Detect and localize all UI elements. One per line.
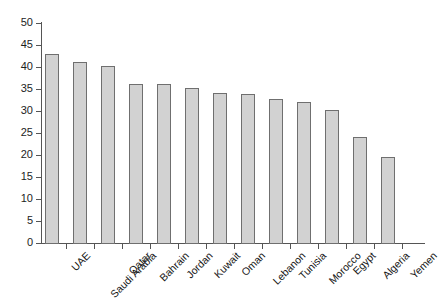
y-axis-tick	[36, 221, 41, 222]
y-axis-tick	[36, 133, 41, 134]
x-axis-category-label: Algeria	[381, 250, 412, 281]
x-axis-tick	[150, 244, 151, 249]
y-axis-tick-label: 35	[7, 83, 33, 94]
x-axis-tick	[374, 244, 375, 249]
y-axis-tick	[36, 89, 41, 90]
bar	[353, 137, 367, 244]
y-axis-tick	[36, 155, 41, 156]
x-axis-tick	[318, 244, 319, 249]
y-axis-tick-label: 10	[7, 193, 33, 204]
y-axis-tick-label: 45	[7, 39, 33, 50]
x-axis-category-label: Oman	[239, 250, 267, 278]
bar	[213, 93, 227, 244]
bar	[185, 88, 199, 244]
x-axis-tick	[262, 244, 263, 249]
x-axis-tick	[66, 244, 67, 249]
y-axis-tick	[36, 243, 41, 244]
y-axis-tick	[36, 177, 41, 178]
y-axis-tick-label: 40	[7, 61, 33, 72]
bar	[297, 102, 311, 244]
y-axis-line	[41, 22, 42, 244]
bar	[241, 94, 255, 244]
x-axis-tick	[290, 244, 291, 249]
y-axis-tick-label: 15	[7, 171, 33, 182]
x-axis-tick	[402, 244, 403, 249]
bar	[157, 84, 171, 244]
y-axis-tick-label: 5	[7, 215, 33, 226]
x-axis-tick	[234, 244, 235, 249]
bar	[101, 66, 115, 244]
y-axis-tick-label: 30	[7, 105, 33, 116]
bar	[325, 110, 339, 244]
x-axis-tick	[94, 244, 95, 249]
y-axis-tick-label: 0	[7, 237, 33, 248]
y-axis-labels: 05101520253035404550	[0, 0, 33, 306]
x-axis-tick	[206, 244, 207, 249]
x-axis-category-label: UAE	[69, 250, 92, 273]
y-axis-tick	[36, 111, 41, 112]
bar	[381, 157, 395, 244]
x-axis-category-label: Jordan	[184, 250, 214, 280]
y-axis-tick-label: 25	[7, 127, 33, 138]
bar	[45, 54, 59, 244]
x-axis-line	[41, 243, 425, 244]
y-axis-tick-label: 50	[7, 17, 33, 28]
y-axis-tick-label: 20	[7, 149, 33, 160]
bar	[129, 84, 143, 244]
x-axis-tick	[346, 244, 347, 249]
y-axis-tick	[36, 199, 41, 200]
bar	[269, 99, 283, 244]
y-axis-tick	[36, 67, 41, 68]
bar	[73, 62, 87, 244]
bar-chart: 05101520253035404550 UAESaudi ArabiaQata…	[0, 0, 446, 306]
x-axis-tick	[122, 244, 123, 249]
x-axis-category-label: Kuwait	[212, 250, 242, 280]
x-axis-tick	[178, 244, 179, 249]
x-axis-category-label: Bahrain	[158, 250, 191, 283]
y-axis-tick	[36, 23, 41, 24]
x-axis-category-label: Yemen	[408, 250, 439, 281]
y-axis-tick	[36, 45, 41, 46]
